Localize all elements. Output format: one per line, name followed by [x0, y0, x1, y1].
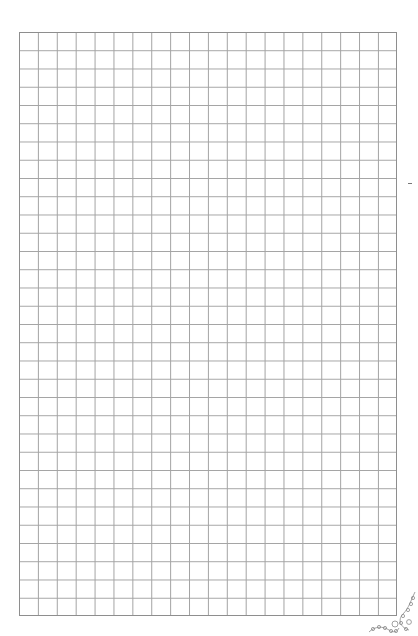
corner-ornament-icon: [365, 588, 418, 636]
graph-paper-grid: [19, 32, 397, 616]
margin-mark: [408, 183, 412, 184]
